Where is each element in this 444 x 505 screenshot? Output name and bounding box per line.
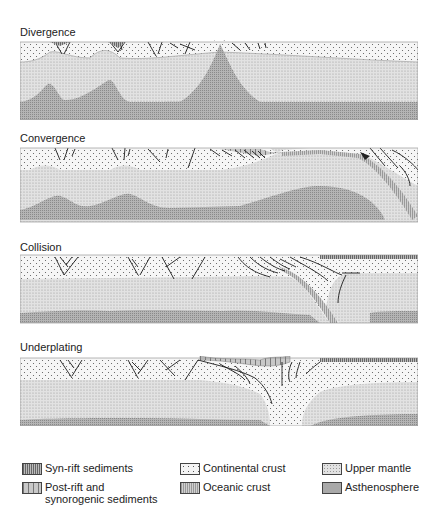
post-rift-swatch-icon <box>22 482 42 494</box>
panel-divergence <box>20 40 418 120</box>
legend-item-upper-mantle: Upper mantle <box>322 462 411 475</box>
legend-item-post-rift: Post-rift and synorogenic sediments <box>22 481 158 505</box>
legend-label: Continental crust <box>203 462 286 474</box>
legend-item-oceanic-crust: Oceanic crust <box>180 481 270 494</box>
panel-convergence <box>20 146 418 224</box>
oceanic-crust-swatch-icon <box>180 482 200 494</box>
legend-label: Asthenosphere <box>345 481 419 493</box>
continental-crust-swatch-icon <box>180 463 200 475</box>
legend-label: Syn-rift sediments <box>45 462 133 474</box>
legend-item-asthenosphere: Asthenosphere <box>322 481 419 494</box>
panel-label-convergence: Convergence <box>20 132 85 144</box>
panel-underplating <box>20 356 418 426</box>
legend-item-continental-crust: Continental crust <box>180 462 286 475</box>
legend-label: Upper mantle <box>345 462 411 474</box>
asthenosphere-swatch-icon <box>322 482 342 494</box>
legend-label: Post-rift and synorogenic sediments <box>45 481 158 505</box>
syn-rift-swatch-icon <box>22 463 42 475</box>
upper-mantle-swatch-icon <box>322 463 342 475</box>
panel-label-underplating: Underplating <box>20 341 82 353</box>
panel-collision <box>20 253 418 325</box>
panel-label-divergence: Divergence <box>20 26 76 38</box>
legend-label: Oceanic crust <box>203 481 270 493</box>
legend-item-syn-rift: Syn-rift sediments <box>22 462 133 475</box>
panel-label-collision: Collision <box>20 241 62 253</box>
